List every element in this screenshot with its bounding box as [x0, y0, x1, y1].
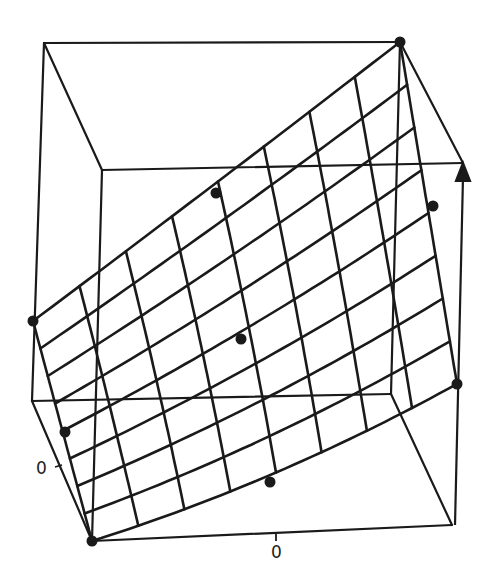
surface-grid: [33, 42, 457, 541]
control-point-center: [236, 334, 247, 345]
control-point-edge-mid-bottom: [265, 477, 276, 488]
surface-plot-canvas: [0, 0, 490, 583]
control-point-corner-right: [452, 379, 463, 390]
left-axis-tick-label: 0: [36, 458, 47, 478]
control-point-edge-mid-right: [428, 201, 439, 212]
control-point-corner-left: [28, 316, 39, 327]
box-edge-depth-top-left: [44, 43, 102, 170]
grid-line-v: [70, 256, 436, 459]
box-edge-inner-bottom: [92, 525, 452, 541]
grid-line-v: [33, 42, 400, 321]
vertical-axis-arrow: [455, 163, 470, 525]
grid-line-v: [55, 170, 421, 403]
control-point-corner-top-right: [395, 37, 406, 48]
control-point-edge-mid-left: [60, 427, 71, 438]
arrow-head-icon: [456, 163, 470, 181]
box-edge-inner-top: [102, 163, 463, 170]
control-point-corner-bottom: [87, 536, 98, 547]
control-point-edge-mid-top: [211, 188, 222, 199]
bottom-axis-tick-label: 0: [271, 542, 282, 562]
surface-diagram: 0 0: [0, 0, 490, 583]
arrow-shaft: [455, 177, 463, 525]
box-edge-top: [44, 42, 400, 43]
bounding-box: [32, 42, 463, 541]
